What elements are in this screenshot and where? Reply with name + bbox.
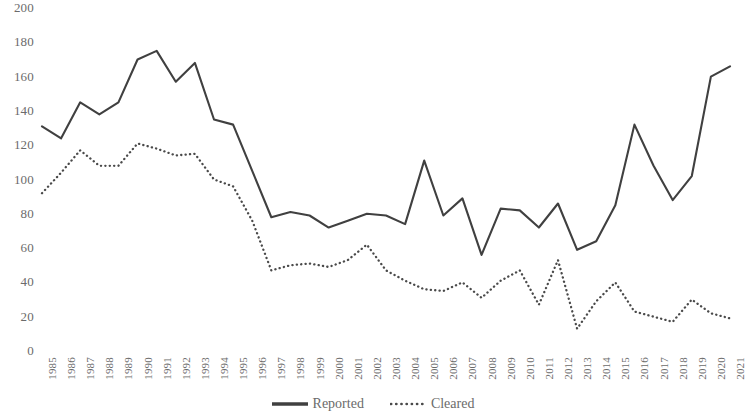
x-tick-label: 1987: [85, 357, 96, 380]
x-tick-label: 1992: [181, 357, 192, 380]
x-tick-label: 1994: [219, 357, 230, 380]
x-tick-label: 2007: [467, 357, 478, 380]
y-tick-label: 120: [14, 138, 34, 151]
y-tick-label: 180: [14, 35, 34, 48]
x-tick-label: 1986: [66, 357, 77, 380]
y-tick-label: 100: [14, 173, 34, 186]
y-tick-label: 140: [14, 104, 34, 117]
y-tick-label: 160: [14, 70, 34, 83]
x-tick-label: 1995: [238, 357, 249, 380]
legend-item-cleared: Cleared: [390, 397, 475, 411]
chart-legend: Reported Cleared: [0, 390, 746, 417]
x-tick-label: 1990: [143, 357, 154, 380]
x-tick-label: 2004: [410, 357, 421, 380]
x-tick-label: 2015: [620, 357, 631, 380]
x-tick-label: 2008: [487, 357, 498, 380]
x-tick-label: 2000: [334, 357, 345, 380]
x-tick-label: 1991: [162, 357, 173, 380]
x-tick-label: 2018: [678, 357, 689, 380]
line-chart: 020406080100120140160180200 198519861987…: [0, 0, 746, 417]
y-tick-label: 60: [21, 241, 34, 254]
x-tick-label: 1998: [295, 357, 306, 380]
x-tick-label: 1996: [257, 357, 268, 380]
legend-label-reported: Reported: [313, 397, 364, 411]
x-tick-label: 2002: [372, 357, 383, 380]
x-tick-label: 1985: [47, 357, 58, 380]
x-tick-label: 2005: [429, 357, 440, 380]
x-tick-label: 2017: [659, 357, 670, 380]
legend-item-reported: Reported: [272, 397, 364, 411]
x-tick-label: 2011: [544, 357, 555, 379]
y-tick-label: 200: [14, 1, 34, 14]
x-tick-label: 2020: [716, 357, 727, 380]
x-tick-label: 2014: [601, 357, 612, 380]
x-tick-label: 2016: [639, 357, 650, 380]
y-tick-label: 20: [21, 310, 34, 323]
series-line-cleared: [42, 143, 730, 328]
x-tick-label: 2021: [735, 357, 746, 380]
legend-label-cleared: Cleared: [431, 397, 475, 411]
x-tick-label: 2006: [448, 357, 459, 380]
x-tick-label: 2013: [582, 357, 593, 380]
x-tick-label: 1993: [200, 357, 211, 380]
x-tick-label: 2009: [506, 357, 517, 380]
dotted-line-swatch-icon: [390, 400, 426, 408]
x-tick-label: 1988: [104, 357, 115, 380]
x-tick-label: 2003: [391, 357, 402, 380]
y-tick-label: 40: [21, 275, 34, 288]
x-tick-label: 2010: [525, 357, 536, 380]
x-tick-label: 1989: [123, 357, 134, 380]
x-tick-label: 2019: [697, 357, 708, 380]
x-tick-label: 2001: [353, 357, 364, 380]
solid-line-swatch-icon: [272, 400, 308, 408]
series-line-reported: [42, 51, 730, 255]
x-tick-label: 1997: [276, 357, 287, 380]
x-tick-label: 1999: [315, 357, 326, 380]
y-tick-label: 80: [21, 207, 34, 220]
x-tick-label: 2012: [563, 357, 574, 380]
